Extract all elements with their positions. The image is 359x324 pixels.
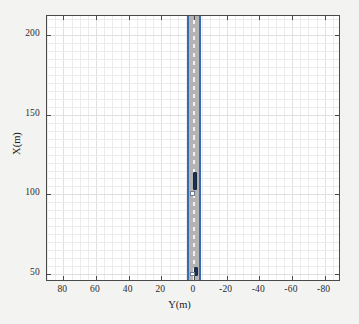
gridline-vertical bbox=[202, 16, 203, 280]
road-edge-left-line bbox=[187, 15, 189, 281]
x-tick-mark bbox=[63, 276, 64, 280]
y-tick-label: 200 bbox=[4, 28, 40, 38]
lane-dash-segment bbox=[193, 127, 195, 131]
gridline-vertical bbox=[63, 16, 64, 280]
lane-dash-segment bbox=[193, 218, 195, 222]
gridline-vertical bbox=[333, 16, 334, 280]
gridline-vertical bbox=[227, 16, 228, 280]
gridline-vertical bbox=[161, 16, 162, 280]
gridline-vertical bbox=[55, 16, 56, 280]
y-tick-label: 100 bbox=[4, 187, 40, 197]
gridline-vertical bbox=[178, 16, 179, 280]
x-tick-mark bbox=[325, 276, 326, 280]
lane-dash-segment bbox=[193, 235, 195, 239]
gridline-vertical bbox=[145, 16, 146, 280]
gridline-vertical bbox=[80, 16, 81, 280]
x-tick-mark bbox=[292, 16, 293, 20]
x-tick-mark bbox=[259, 16, 260, 20]
gridline-vertical bbox=[72, 16, 73, 280]
gridline-vertical bbox=[104, 16, 105, 280]
x-tick-mark bbox=[292, 276, 293, 280]
gridline-vertical bbox=[170, 16, 171, 280]
x-tick-mark bbox=[194, 16, 195, 20]
lane-dash-segment bbox=[193, 260, 195, 264]
lane-dash-segment bbox=[193, 202, 195, 206]
reference-point-ego-reference bbox=[190, 191, 195, 196]
gridline-vertical bbox=[325, 16, 326, 280]
y-tick-mark bbox=[335, 274, 339, 275]
gridline-vertical bbox=[112, 16, 113, 280]
gridline-vertical bbox=[300, 16, 301, 280]
plot-area bbox=[46, 15, 340, 281]
lane-dash-segment bbox=[193, 102, 195, 106]
gridline-vertical bbox=[219, 16, 220, 280]
y-tick-label: 50 bbox=[4, 267, 40, 277]
x-tick-mark bbox=[227, 16, 228, 20]
gridline-vertical bbox=[88, 16, 89, 280]
x-tick-mark bbox=[227, 276, 228, 280]
chart-screenshot: 806040200-20-40-60-80 20015010050 Y(m) X… bbox=[0, 0, 359, 324]
y-axis-title: X(m) bbox=[11, 114, 22, 174]
lane-dash-segment bbox=[193, 210, 195, 214]
gridline-vertical bbox=[317, 16, 318, 280]
gridline-vertical bbox=[251, 16, 252, 280]
lane-dash-segment bbox=[193, 135, 195, 139]
lane-dash-segment bbox=[193, 94, 195, 98]
lane-dash-segment bbox=[193, 152, 195, 156]
lane-dash-segment bbox=[193, 251, 195, 255]
gridline-vertical bbox=[243, 16, 244, 280]
gridline-vertical bbox=[235, 16, 236, 280]
lane-dash-segment bbox=[193, 61, 195, 65]
lane-dash-segment bbox=[193, 53, 195, 57]
lane-dash-segment bbox=[193, 20, 195, 24]
y-tick-mark bbox=[47, 115, 51, 116]
gridline-vertical bbox=[137, 16, 138, 280]
x-tick-mark bbox=[194, 276, 195, 280]
x-tick-mark bbox=[129, 16, 130, 20]
x-axis-title: Y(m) bbox=[0, 299, 359, 310]
x-tick-mark bbox=[63, 16, 64, 20]
x-tick-mark bbox=[161, 276, 162, 280]
lane-dash-segment bbox=[193, 28, 195, 32]
gridline-vertical bbox=[276, 16, 277, 280]
vehicle-marker-ego-vehicle bbox=[193, 172, 197, 190]
gridline-vertical bbox=[47, 16, 48, 280]
gridline-vertical bbox=[284, 16, 285, 280]
x-tick-label: -80 bbox=[304, 284, 344, 294]
gridline-vertical bbox=[308, 16, 309, 280]
lane-dash-segment bbox=[193, 77, 195, 81]
gridline-vertical bbox=[259, 16, 260, 280]
lane-dash-segment bbox=[193, 86, 195, 90]
lane-dash-segment bbox=[193, 144, 195, 148]
x-tick-mark bbox=[259, 276, 260, 280]
y-tick-label: 150 bbox=[4, 108, 40, 118]
y-tick-mark bbox=[47, 274, 51, 275]
gridline-vertical bbox=[210, 16, 211, 280]
gridline-vertical bbox=[292, 16, 293, 280]
x-tick-mark bbox=[129, 276, 130, 280]
lane-dash-segment bbox=[193, 111, 195, 115]
lane-dash-segment bbox=[193, 160, 195, 164]
x-tick-mark bbox=[325, 16, 326, 20]
y-tick-mark bbox=[47, 194, 51, 195]
lane-dash-segment bbox=[193, 227, 195, 231]
lane-dash-segment bbox=[193, 119, 195, 123]
lane-dash-segment bbox=[193, 69, 195, 73]
gridline-vertical bbox=[129, 16, 130, 280]
gridline-vertical bbox=[268, 16, 269, 280]
lane-dash-segment bbox=[193, 44, 195, 48]
lane-dash-segment bbox=[193, 243, 195, 247]
gridline-vertical bbox=[121, 16, 122, 280]
x-tick-mark bbox=[96, 16, 97, 20]
gridline-vertical bbox=[153, 16, 154, 280]
x-tick-mark bbox=[161, 16, 162, 20]
y-tick-mark bbox=[335, 115, 339, 116]
gridline-vertical bbox=[96, 16, 97, 280]
lane-dash-segment bbox=[193, 36, 195, 40]
y-tick-mark bbox=[335, 194, 339, 195]
y-tick-mark bbox=[335, 35, 339, 36]
x-tick-mark bbox=[96, 276, 97, 280]
y-tick-mark bbox=[47, 35, 51, 36]
road-edge-right-line bbox=[199, 15, 201, 281]
